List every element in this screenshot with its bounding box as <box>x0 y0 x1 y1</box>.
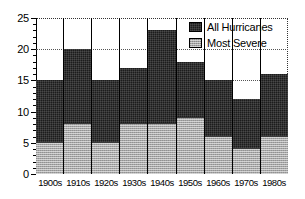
x-axis-label: 1980s <box>260 177 288 188</box>
y-tick-label-10: 10 <box>17 106 29 118</box>
bar-segment-most-severe <box>261 136 288 174</box>
bar-segment-most-severe <box>205 136 232 174</box>
dark-square-icon <box>189 22 202 32</box>
x-axis-label: 1930s <box>120 177 148 188</box>
bar-segment-most-severe <box>120 123 147 174</box>
legend-label-all-hurricanes: All Hurricanes <box>207 21 273 33</box>
legend-label-most-severe: Most Severe <box>207 37 267 49</box>
gray-hatched-square-icon <box>189 38 202 48</box>
bar-segment-most-severe <box>233 148 260 174</box>
bar-segment-most-severe <box>177 117 204 174</box>
x-axis-label: 1960s <box>204 177 232 188</box>
bar-segment-most-severe <box>148 123 175 174</box>
chart-legend: All Hurricanes Most Severe <box>189 21 273 49</box>
x-axis-label: 1940s <box>148 177 176 188</box>
bar-segment-most-severe <box>92 142 119 174</box>
y-tick-label-15: 15 <box>17 74 29 86</box>
x-axis-label: 1910s <box>64 177 92 188</box>
x-axis-label: 1950s <box>176 177 204 188</box>
bar-column <box>120 18 148 174</box>
x-axis-label: 1970s <box>232 177 260 188</box>
bar-segment-most-severe <box>36 142 63 174</box>
x-axis-label: 1920s <box>92 177 120 188</box>
x-axis-labels: 1900s1910s1920s1930s1940s1950s1960s1970s… <box>36 177 288 188</box>
bar-segment-most-severe <box>64 123 91 174</box>
bar-column <box>64 18 92 174</box>
bar-column <box>148 18 176 174</box>
legend-item-most-severe: Most Severe <box>189 37 273 49</box>
y-tick-0 <box>31 174 36 175</box>
x-axis-label: 1900s <box>36 177 64 188</box>
bar-column <box>36 18 64 174</box>
y-axis: 0510152025 <box>0 0 36 199</box>
y-tick-label-5: 5 <box>23 137 29 149</box>
bar-column <box>92 18 120 174</box>
y-tick-label-0: 0 <box>23 168 29 180</box>
y-tick-label-20: 20 <box>17 43 29 55</box>
y-tick-label-25: 25 <box>17 12 29 24</box>
legend-item-all-hurricanes: All Hurricanes <box>189 21 273 33</box>
hurricane-bar-chart: 0510152025 1900s1910s1920s1930s1940s1950… <box>0 0 305 199</box>
